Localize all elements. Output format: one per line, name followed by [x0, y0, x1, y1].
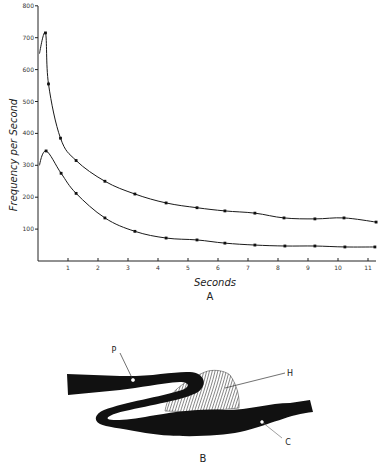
x-tick-label: 6: [216, 264, 220, 271]
data-point: [165, 237, 168, 240]
series-line-1: [40, 151, 375, 247]
leader-line-c: [262, 422, 282, 438]
y-tick-label: 300: [23, 161, 35, 168]
x-tick-label: 5: [186, 264, 190, 271]
x-tick-label: 7: [246, 264, 250, 271]
leader-line-h: [225, 373, 285, 388]
panel-label-a: A: [207, 291, 214, 302]
figure: 100200300400500600700800 1234567891011 F…: [0, 0, 388, 465]
x-axis-title: Seconds: [194, 277, 236, 288]
y-ticks: 100200300400500600700800: [23, 2, 38, 232]
x-tick-label: 11: [364, 264, 372, 271]
data-point: [196, 206, 199, 209]
data-point: [60, 172, 63, 175]
data-point: [314, 245, 317, 248]
data-point: [104, 180, 107, 183]
data-series: [40, 32, 378, 249]
y-tick-label: 400: [23, 129, 35, 136]
data-point: [104, 217, 107, 220]
data-point: [344, 246, 347, 249]
data-point: [75, 192, 78, 195]
y-axis-title: Frequency per Second: [8, 98, 19, 211]
data-point: [196, 239, 199, 242]
marker-c: [261, 421, 264, 424]
x-tick-label: 10: [334, 264, 342, 271]
data-point: [59, 137, 62, 140]
marker-p: [131, 378, 134, 381]
data-point: [254, 244, 257, 247]
panel-label-b: B: [200, 453, 207, 464]
y-tick-label: 700: [23, 34, 35, 41]
x-tick-label: 1: [66, 264, 70, 271]
data-point: [134, 193, 137, 196]
x-ticks: 1234567891011: [66, 258, 372, 271]
y-tick-label: 100: [23, 225, 35, 232]
data-point: [47, 83, 50, 86]
data-point: [224, 210, 227, 213]
data-point: [375, 221, 378, 224]
frequency-chart: 100200300400500600700800 1234567891011 F…: [8, 2, 378, 302]
x-tick-label: 3: [126, 264, 130, 271]
data-point: [374, 246, 377, 249]
data-point: [314, 217, 317, 220]
y-tick-label: 600: [23, 66, 35, 73]
data-point: [75, 159, 78, 162]
x-tick-label: 2: [96, 264, 100, 271]
label-p: P: [112, 346, 117, 355]
x-tick-label: 8: [276, 264, 280, 271]
data-point: [224, 242, 227, 245]
leader-line-p: [120, 353, 133, 380]
y-tick-label: 200: [23, 193, 35, 200]
x-tick-label: 9: [306, 264, 310, 271]
data-point: [165, 202, 168, 205]
data-point: [283, 217, 286, 220]
y-tick-label: 500: [23, 98, 35, 105]
data-point: [254, 212, 257, 215]
data-point: [134, 230, 137, 233]
label-h: H: [287, 369, 293, 378]
data-point: [45, 150, 48, 153]
data-point: [284, 245, 287, 248]
data-point: [44, 32, 47, 35]
y-tick-label: 800: [23, 2, 35, 9]
anatomy-diagram: P H C B: [67, 346, 313, 464]
hatch-line: [236, 366, 250, 414]
x-tick-label: 4: [156, 264, 160, 271]
hatch-line: [239, 366, 253, 414]
data-point: [343, 217, 346, 220]
series-line-0: [40, 32, 377, 222]
label-c: C: [285, 438, 291, 447]
